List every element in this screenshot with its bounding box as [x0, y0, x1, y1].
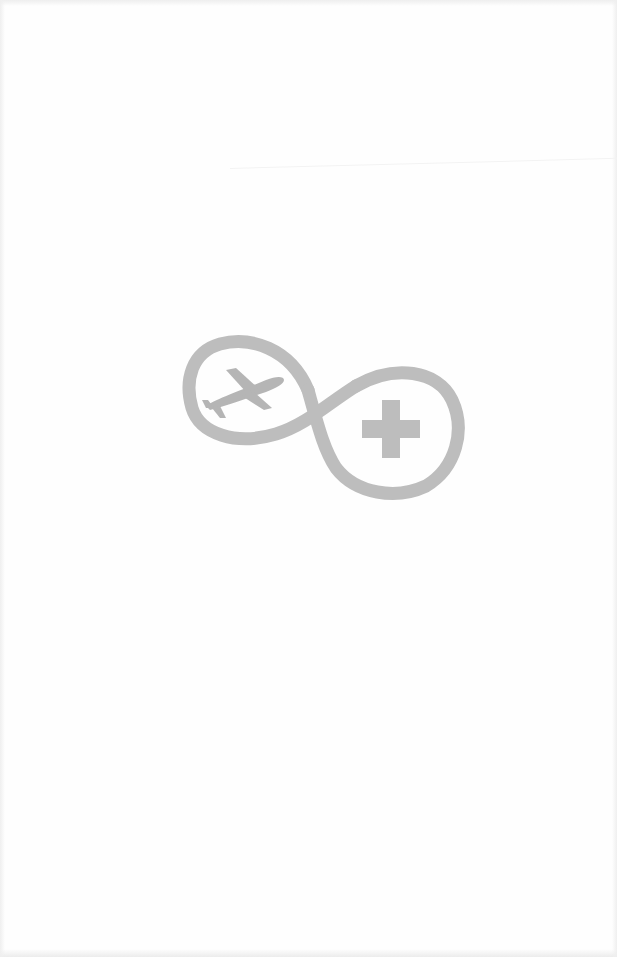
scan-edge-left [0, 0, 5, 957]
logo-graphic [180, 330, 470, 500]
logo [180, 330, 470, 500]
medical-cross-icon [362, 400, 420, 458]
scan-edge-bottom [0, 949, 617, 957]
infinity-ribbon-icon [189, 342, 458, 494]
fold-line [230, 158, 617, 169]
scan-edge-top [0, 0, 617, 6]
page [0, 0, 617, 957]
airplane-icon [202, 368, 284, 418]
scan-edge-right [612, 0, 617, 957]
